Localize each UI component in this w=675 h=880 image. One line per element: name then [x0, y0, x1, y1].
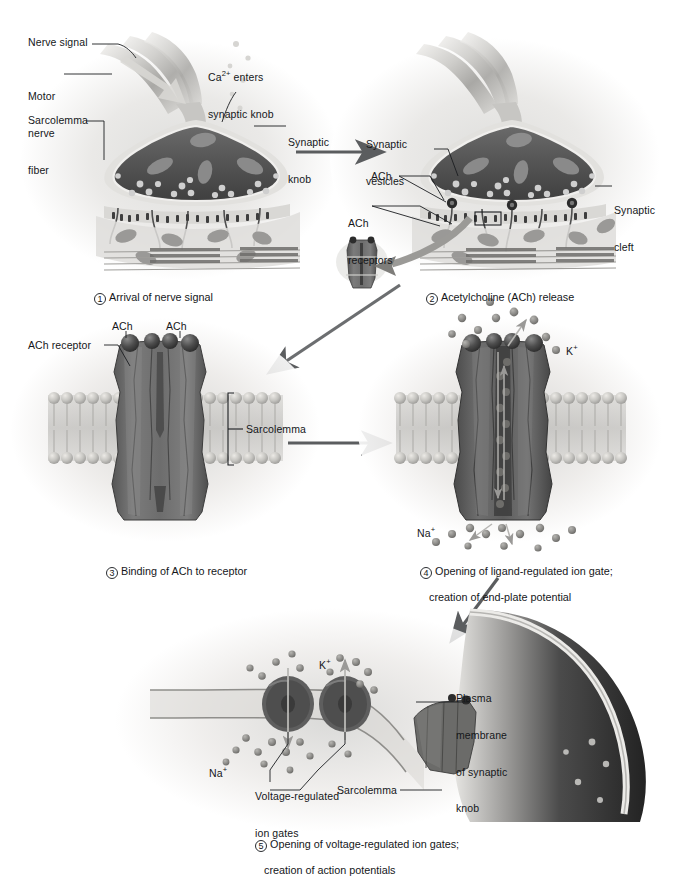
step-5-line1: Opening of voltage-regulated ion gates;	[270, 838, 459, 850]
step-1-text: Arrival of nerve signal	[109, 291, 213, 303]
label-nerve-signal: Nerve signal	[28, 36, 88, 48]
label-potassium-panel5: K+	[313, 644, 331, 671]
label-synaptic-cleft: Synaptic cleft	[614, 180, 655, 265]
caption-step-5: 5Opening of voltage-regulated ion gates;…	[249, 825, 459, 880]
label-synaptic-knob: Synaptic knob	[288, 112, 329, 197]
step-4-line2: creation of end-plate potential	[429, 591, 613, 604]
plasma-membrane-line4: knob	[456, 802, 507, 814]
step-1-number: 1	[94, 293, 106, 305]
calcium-superscript: 2+	[222, 69, 231, 78]
plasma-membrane-line3: of synaptic	[456, 766, 507, 778]
motor-nerve-fiber-line3: fiber	[28, 164, 55, 176]
plasma-membrane-line2: membrane	[456, 729, 507, 741]
step-5-number: 5	[255, 840, 267, 852]
panel-5-artwork	[115, 608, 646, 832]
ach-receptors-line2: receptors	[348, 254, 393, 266]
label-ach-right-panel3: ACh	[166, 320, 187, 332]
voltage-gates-line1: Voltage-regulated	[255, 790, 339, 802]
ach-receptor-open	[454, 333, 552, 520]
step-3-text: Binding of ACh to receptor	[121, 565, 247, 577]
k-superscript-bottom: +	[326, 657, 331, 666]
label-ach-panel2: ACh	[371, 170, 392, 182]
synaptic-cleft-line2: cleft	[614, 241, 655, 253]
caption-step-4: 4Opening of ligand-regulated ion gate; c…	[414, 552, 613, 616]
synaptic-cleft-line1: Synaptic	[614, 204, 655, 216]
caption-step-3: 3Binding of ACh to receptor	[100, 552, 247, 579]
label-potassium-panel4: K+	[560, 330, 578, 357]
label-sarcolemma-panel3: Sarcolemma	[246, 423, 306, 435]
calcium-enters-word: enters	[231, 71, 264, 83]
label-calcium-enters: Ca2+ enters synaptic knob	[208, 44, 274, 132]
caption-step-1: 1Arrival of nerve signal	[88, 278, 213, 305]
arrow-2-to-3	[270, 285, 400, 372]
label-sodium-panel5: Na+	[203, 752, 227, 779]
step-5-line2: creation of action potentials	[264, 864, 459, 877]
ach-receptor-closed	[112, 333, 208, 520]
step-2-text: Acetylcholine (ACh) release	[441, 291, 574, 303]
calcium-line1: Ca2+ enters	[208, 68, 274, 83]
label-plasma-membrane-of-synaptic-knob: Plasma membrane of synaptic knob	[456, 668, 507, 827]
step-2-number: 2	[426, 293, 438, 305]
synaptic-vesicles-line1: Synaptic	[366, 138, 407, 150]
calcium-line2: synaptic knob	[208, 108, 274, 120]
step-4-number: 4	[420, 567, 432, 579]
motor-nerve-fiber-line1: Motor	[28, 90, 55, 102]
ach-receptors-line1: ACh	[348, 217, 393, 229]
synaptic-knob-line2: knob	[288, 173, 329, 185]
label-ach-receptors: ACh receptors	[348, 193, 393, 278]
label-motor-nerve-fiber: Motor nerve fiber	[28, 66, 55, 188]
na-superscript: +	[431, 525, 436, 534]
label-sodium-panel4: Na+	[411, 512, 435, 539]
plasma-membrane-line1: Plasma	[456, 692, 507, 704]
motor-nerve-fiber-line2: nerve	[28, 127, 55, 139]
label-sarcolemma-panel1: Sarcolemma	[28, 114, 88, 126]
synaptic-knob-line1: Synaptic	[288, 136, 329, 148]
k-superscript: +	[573, 343, 578, 352]
step-3-number: 3	[106, 567, 118, 579]
label-ach-receptor: ACh receptor	[28, 339, 91, 351]
step-4-line1: Opening of ligand-regulated ion gate;	[435, 565, 613, 577]
label-sarcolemma-panel5: Sarcolemma	[337, 784, 397, 796]
panel-4-artwork	[358, 298, 662, 552]
label-ach-left-panel3: ACh	[112, 320, 133, 332]
na-superscript-bottom: +	[223, 765, 228, 774]
na-symbol-bottom: Na	[209, 767, 223, 779]
caption-step-2: 2Acetylcholine (ACh) release	[420, 278, 574, 305]
calcium-symbol: Ca	[208, 71, 222, 83]
label-synaptic-vesicles: Synaptic vesicles	[366, 114, 407, 199]
na-symbol: Na	[417, 527, 431, 539]
